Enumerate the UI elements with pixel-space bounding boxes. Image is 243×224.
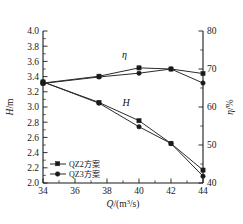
y-axis-title-unit: /m	[5, 98, 15, 109]
x-tick-label: 34	[38, 186, 48, 196]
data-point-square	[137, 119, 141, 123]
data-point-circle	[97, 75, 102, 80]
y-axis-title: H/m	[5, 98, 15, 117]
x-tick-label: 38	[102, 186, 112, 196]
right-tick-label: 80	[207, 26, 217, 36]
x-axis-title: Q/(m3/s)	[107, 198, 140, 210]
left-tick-label: 3.4	[27, 72, 39, 82]
legend-label-qz2: QZ2方案	[69, 159, 100, 169]
left-tick-label: 2.6	[27, 133, 39, 143]
legend-marker-circle-icon	[55, 172, 60, 177]
x-axis-title-unit: /(m	[113, 199, 127, 210]
x-tick-label: 36	[70, 186, 80, 196]
dual-axis-line-chart: 2.0 2.2 2.4 2.6 2.8 3.0 3.2 3.4 3.6 3.8 …	[0, 0, 243, 224]
x-tick-label: 40	[134, 186, 144, 196]
data-point-circle	[137, 71, 142, 76]
right-tick-label: 60	[207, 102, 217, 112]
y2-axis-title: η/%	[225, 99, 235, 114]
left-axis-tick-labels: 2.0 2.2 2.4 2.6 2.8 3.0 3.2 3.4 3.6 3.8 …	[27, 26, 39, 188]
right-tick-label: 70	[207, 64, 217, 74]
data-point-circle	[201, 174, 206, 179]
legend-marker-square-icon	[56, 162, 60, 166]
right-tick-label: 50	[207, 140, 217, 150]
y2-axis-title-unit: /%	[225, 99, 235, 110]
data-point-circle	[169, 67, 174, 72]
data-point-square	[201, 71, 205, 75]
left-tick-label: 3.6	[27, 57, 39, 67]
data-point-circle	[169, 141, 174, 146]
data-point-square	[137, 66, 141, 70]
data-point-circle	[201, 81, 206, 86]
data-point-square	[201, 168, 205, 172]
eta-curve-annotation: η	[122, 49, 127, 60]
x-tick-label: 44	[198, 186, 208, 196]
left-tick-label: 2.4	[27, 148, 39, 158]
svg-text:Q/(m3/s): Q/(m3/s)	[107, 198, 140, 210]
x-tick-label: 42	[166, 186, 176, 196]
left-tick-label: 2.8	[27, 118, 39, 128]
data-point-circle	[137, 125, 142, 130]
left-tick-label: 3.2	[27, 87, 39, 97]
data-point-circle	[41, 80, 46, 85]
svg-text:η/%: η/%	[225, 99, 235, 114]
x-axis-title-tail: /s)	[130, 199, 140, 210]
left-tick-label: 4.0	[27, 26, 39, 36]
svg-text:H/m: H/m	[5, 98, 15, 117]
right-tick-label: 40	[207, 178, 217, 188]
left-tick-label: 3.8	[27, 42, 39, 52]
left-tick-label: 2.2	[27, 163, 39, 173]
left-tick-label: 3.0	[27, 102, 39, 112]
h-curve-annotation: H	[122, 97, 131, 108]
legend-label-qz3: QZ3方案	[69, 169, 100, 179]
data-point-circle	[97, 101, 102, 106]
